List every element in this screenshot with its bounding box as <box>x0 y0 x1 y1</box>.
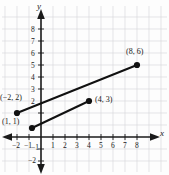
y-tick-label-5: 5 <box>31 62 35 70</box>
data-point-4-3 <box>86 98 92 104</box>
x-axis-arrow-right <box>150 133 160 141</box>
data-point-1-1 <box>29 125 35 131</box>
point-label-neg2-2: (−2, 2) <box>0 94 22 102</box>
x-tick-label-neg2: −2 <box>12 142 20 150</box>
y-tick-label-3: 3 <box>31 86 35 94</box>
x-tick-label-5: 5 <box>99 142 103 150</box>
y-tick-label-2: 2 <box>31 98 35 106</box>
point-label-8-6: (8, 6) <box>126 48 143 56</box>
x-tick-label-2: 2 <box>63 142 67 150</box>
coordinate-plane-graph: y x 8 7 6 5 4 3 2 −1 −2 −2 −1 1 2 3 4 5 … <box>0 0 169 175</box>
y-axis-label: y <box>37 2 41 11</box>
data-point-neg2-2 <box>14 110 20 116</box>
x-tick-label-4: 4 <box>87 142 91 150</box>
x-tick-label-6: 6 <box>111 142 115 150</box>
point-label-4-3: (4, 3) <box>95 96 112 104</box>
y-axis-arrow-down <box>37 164 45 174</box>
x-axis-label: x <box>160 129 164 138</box>
x-tick-label-neg1: −1 <box>24 142 32 150</box>
x-tick-label-8: 8 <box>135 142 139 150</box>
x-tick-label-7: 7 <box>123 142 127 150</box>
y-tick-label-neg1: −1 <box>31 144 39 152</box>
x-axis <box>2 133 160 141</box>
x-axis-arrow-left <box>2 133 12 141</box>
lower-line-segment <box>29 98 92 131</box>
y-tick-label-4: 4 <box>31 74 35 82</box>
y-tick-label-6: 6 <box>31 50 35 58</box>
grid-horizontal <box>2 17 167 161</box>
y-tick-label-7: 7 <box>31 38 35 46</box>
point-label-1-1: (1, 1) <box>2 118 19 126</box>
x-tick-label-1: 1 <box>51 142 55 150</box>
y-tick-label-neg2: −2 <box>28 157 36 165</box>
data-point-8-6 <box>134 62 140 68</box>
x-tick-label-3: 3 <box>75 142 79 150</box>
y-tick-label-8: 8 <box>31 26 35 34</box>
